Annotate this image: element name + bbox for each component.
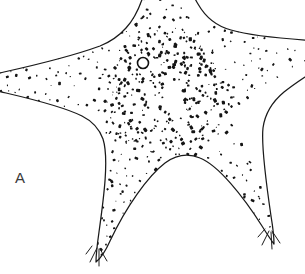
sea-star-illustration bbox=[0, 0, 305, 274]
spine-tuft-lower-right bbox=[258, 229, 280, 249]
star-body-outline bbox=[0, 0, 305, 262]
figure-panel: A bbox=[0, 0, 305, 274]
panel-label: A bbox=[15, 170, 26, 185]
